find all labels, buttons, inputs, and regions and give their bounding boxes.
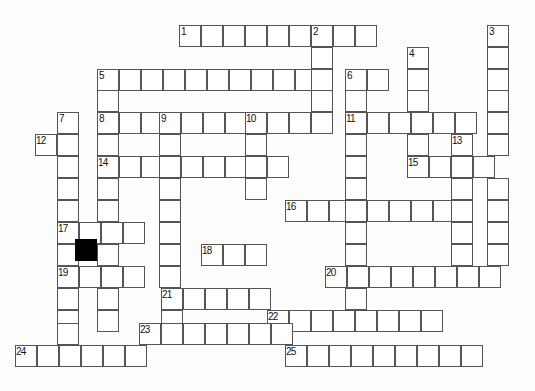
letter-cell[interactable] (223, 244, 245, 266)
letter-cell[interactable] (345, 134, 367, 156)
numbered-cell[interactable]: 7 (57, 112, 79, 134)
letter-cell[interactable] (487, 47, 509, 69)
letter-cell[interactable] (183, 288, 205, 310)
letter-cell[interactable] (311, 90, 333, 112)
letter-cell[interactable] (389, 200, 411, 222)
numbered-cell[interactable]: 14 (97, 156, 119, 178)
numbered-cell[interactable]: 23 (139, 323, 161, 345)
letter-cell[interactable] (333, 25, 355, 47)
letter-cell[interactable] (333, 310, 355, 332)
letter-cell[interactable] (245, 178, 267, 200)
letter-cell[interactable] (289, 112, 311, 134)
letter-cell[interactable] (487, 69, 509, 91)
letter-cell[interactable] (451, 156, 473, 178)
numbered-cell[interactable]: 9 (159, 112, 181, 134)
letter-cell[interactable] (451, 222, 473, 244)
letter-cell[interactable] (367, 69, 389, 91)
letter-cell[interactable] (159, 266, 181, 288)
letter-cell[interactable] (487, 90, 509, 112)
letter-cell[interactable] (181, 112, 203, 134)
numbered-cell[interactable]: 12 (35, 134, 57, 156)
crossword-grid[interactable]: 1234567891011121314151617181920212223242… (0, 0, 535, 391)
letter-cell[interactable] (205, 323, 227, 345)
letter-cell[interactable] (97, 200, 119, 222)
letter-cell[interactable] (311, 69, 333, 91)
letter-cell[interactable] (101, 266, 123, 288)
letter-cell[interactable] (37, 345, 59, 367)
numbered-cell[interactable]: 3 (487, 25, 509, 47)
letter-cell[interactable] (273, 69, 295, 91)
letter-cell[interactable] (389, 112, 411, 134)
letter-cell[interactable] (487, 244, 509, 266)
letter-cell[interactable] (227, 323, 249, 345)
letter-cell[interactable] (289, 25, 311, 47)
letter-cell[interactable] (203, 156, 225, 178)
letter-cell[interactable] (487, 112, 509, 134)
letter-cell[interactable] (57, 156, 79, 178)
letter-cell[interactable] (123, 266, 145, 288)
letter-cell[interactable] (97, 178, 119, 200)
letter-cell[interactable] (355, 310, 377, 332)
letter-cell[interactable] (367, 112, 389, 134)
numbered-cell[interactable]: 2 (311, 25, 333, 47)
letter-cell[interactable] (345, 178, 367, 200)
letter-cell[interactable] (225, 156, 247, 178)
letter-cell[interactable] (97, 310, 119, 332)
letter-cell[interactable] (159, 244, 181, 266)
letter-cell[interactable] (57, 200, 79, 222)
letter-cell[interactable] (245, 156, 267, 178)
letter-cell[interactable] (267, 156, 289, 178)
letter-cell[interactable] (123, 222, 145, 244)
letter-cell[interactable] (57, 178, 79, 200)
letter-cell[interactable] (227, 288, 249, 310)
numbered-cell[interactable]: 6 (345, 69, 367, 91)
letter-cell[interactable] (119, 112, 141, 134)
letter-cell[interactable] (97, 244, 119, 266)
letter-cell[interactable] (391, 266, 413, 288)
letter-cell[interactable] (307, 200, 329, 222)
letter-cell[interactable] (345, 244, 367, 266)
letter-cell[interactable] (97, 134, 119, 156)
letter-cell[interactable] (395, 345, 417, 367)
numbered-cell[interactable]: 16 (285, 200, 307, 222)
letter-cell[interactable] (433, 112, 455, 134)
numbered-cell[interactable]: 25 (285, 345, 307, 367)
letter-cell[interactable] (159, 156, 181, 178)
letter-cell[interactable] (373, 345, 395, 367)
numbered-cell[interactable]: 18 (201, 244, 223, 266)
numbered-cell[interactable]: 20 (325, 266, 347, 288)
letter-cell[interactable] (245, 25, 267, 47)
letter-cell[interactable] (245, 134, 267, 156)
letter-cell[interactable] (367, 200, 389, 222)
letter-cell[interactable] (345, 288, 367, 310)
letter-cell[interactable] (201, 25, 223, 47)
letter-cell[interactable] (407, 134, 429, 156)
letter-cell[interactable] (487, 200, 509, 222)
numbered-cell[interactable]: 10 (245, 112, 267, 134)
letter-cell[interactable] (183, 323, 205, 345)
letter-cell[interactable] (487, 134, 509, 156)
letter-cell[interactable] (311, 310, 333, 332)
letter-cell[interactable] (417, 345, 439, 367)
letter-cell[interactable] (345, 222, 367, 244)
letter-cell[interactable] (141, 69, 163, 91)
letter-cell[interactable] (345, 200, 367, 222)
letter-cell[interactable] (407, 69, 429, 91)
numbered-cell[interactable]: 24 (15, 345, 37, 367)
letter-cell[interactable] (421, 310, 443, 332)
letter-cell[interactable] (355, 25, 377, 47)
letter-cell[interactable] (271, 323, 293, 345)
letter-cell[interactable] (119, 69, 141, 91)
letter-cell[interactable] (369, 266, 391, 288)
letter-cell[interactable] (377, 310, 399, 332)
letter-cell[interactable] (159, 200, 181, 222)
letter-cell[interactable] (457, 266, 479, 288)
letter-cell[interactable] (245, 244, 267, 266)
letter-cell[interactable] (119, 156, 141, 178)
letter-cell[interactable] (487, 222, 509, 244)
letter-cell[interactable] (223, 25, 245, 47)
letter-cell[interactable] (451, 178, 473, 200)
letter-cell[interactable] (311, 47, 333, 69)
letter-cell[interactable] (159, 134, 181, 156)
letter-cell[interactable] (345, 90, 367, 112)
